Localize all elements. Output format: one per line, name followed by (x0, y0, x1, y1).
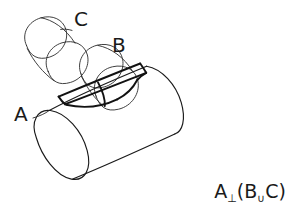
perpendicular-symbol: ⊥ (227, 192, 237, 205)
perpendicularity-formula: A⊥(B∪C) (190, 163, 286, 207)
formula-datum: A (214, 180, 227, 202)
cylinder-a-shape (34, 66, 183, 179)
label-a: A (14, 104, 28, 124)
cylinder-c-upper-edge (41, 18, 75, 43)
cylinder-a-near-cap (34, 110, 89, 179)
label-b: B (112, 35, 126, 55)
formula-feature-c: C (265, 180, 278, 202)
formula-close-paren: ) (279, 180, 286, 202)
cylinder-c-far-cap (25, 17, 67, 59)
patch-edge-left-short (59, 97, 65, 105)
cylinder-a-far-cap (147, 66, 184, 134)
formula-feature-b: B (244, 180, 257, 202)
label-c: C (74, 9, 88, 29)
cylinder-b-shape (79, 44, 138, 110)
diagram-canvas: A B C A⊥(B∪C) (0, 0, 293, 207)
